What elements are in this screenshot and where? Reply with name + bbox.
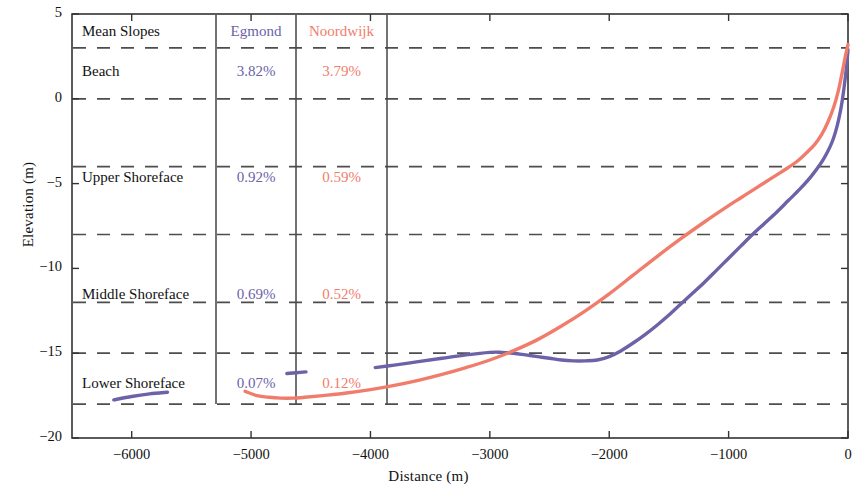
chart-svg	[0, 0, 857, 494]
x-tick-label: −1000	[684, 446, 774, 463]
y-tick-label: −20	[4, 428, 62, 445]
table-cell-egmond: 0.07%	[216, 375, 296, 392]
table-cell-egmond: 3.82%	[216, 63, 296, 80]
x-tick-label: −5000	[206, 446, 296, 463]
x-tick-label: −4000	[325, 446, 415, 463]
table-row-label: Upper Shoreface	[82, 169, 183, 186]
table-header-label: Mean Slopes	[82, 23, 160, 40]
curve-egmond	[287, 372, 306, 374]
table-row-label: Lower Shoreface	[82, 375, 185, 392]
table-row-label: Beach	[82, 63, 119, 80]
table-cell-egmond: 0.69%	[216, 286, 296, 303]
y-tick-label: −5	[4, 174, 62, 191]
x-tick-label: −3000	[445, 446, 535, 463]
y-tick-label: 5	[4, 4, 62, 21]
plot-frame	[72, 14, 848, 438]
y-tick-label: −10	[4, 258, 62, 275]
y-tick-label: 0	[4, 89, 62, 106]
table-cell-egmond: 0.92%	[216, 169, 296, 186]
table-header-egmond: Egmond	[216, 23, 296, 40]
table-cell-noordwijk: 0.59%	[296, 169, 387, 186]
table-cell-noordwijk: 0.12%	[296, 375, 387, 392]
x-tick-label: −2000	[564, 446, 654, 463]
table-cell-noordwijk: 3.79%	[296, 63, 387, 80]
x-tick-label: 0	[803, 446, 857, 463]
y-tick-label: −15	[4, 343, 62, 360]
table-row-label: Middle Shoreface	[82, 286, 189, 303]
x-axis-title: Distance (m)	[0, 468, 857, 485]
table-header-noordwijk: Noordwijk	[296, 23, 387, 40]
table-cell-noordwijk: 0.52%	[296, 286, 387, 303]
x-tick-label: −6000	[87, 446, 177, 463]
